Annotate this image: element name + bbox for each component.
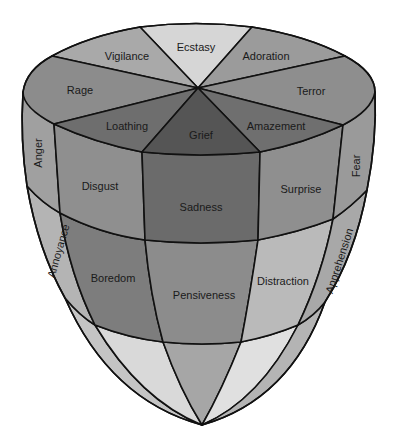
label-sadness: Sadness	[180, 201, 223, 213]
label-amazement: Amazement	[247, 120, 306, 132]
label-rage: Rage	[67, 84, 93, 96]
label-adoration: Adoration	[242, 50, 289, 62]
label-boredom: Boredom	[91, 272, 136, 284]
label-pensiveness: Pensiveness	[173, 289, 236, 301]
label-loathing: Loathing	[106, 120, 148, 132]
label-anger: Anger	[32, 138, 44, 168]
label-grief: Grief	[189, 129, 214, 141]
plutchik-emotion-cone: Ecstasy Vigilance Adoration Rage Terror …	[0, 0, 393, 440]
label-fear: Fear	[350, 154, 362, 177]
label-ecstasy: Ecstasy	[177, 41, 216, 53]
label-surprise: Surprise	[281, 183, 322, 195]
label-disgust: Disgust	[82, 180, 119, 192]
band-sadness	[142, 152, 260, 243]
label-terror: Terror	[297, 85, 326, 97]
label-distraction: Distraction	[257, 275, 309, 287]
label-vigilance: Vigilance	[105, 50, 149, 62]
